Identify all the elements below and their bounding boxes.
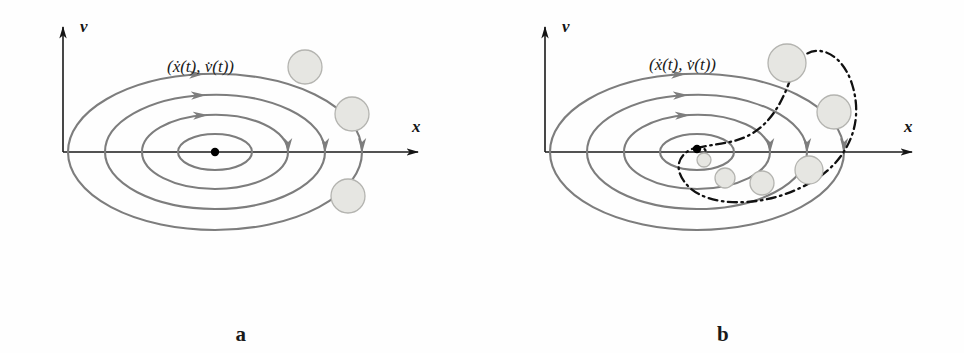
state-ball xyxy=(795,156,823,184)
state-ball xyxy=(331,179,365,213)
state-ball xyxy=(697,153,711,167)
x-axis-label-a: x xyxy=(411,117,421,136)
equilibrium-dot-a xyxy=(211,148,219,156)
state-ball xyxy=(750,171,774,195)
panel-a: v x xyxy=(0,0,482,353)
panel-caption-a: a xyxy=(0,322,482,347)
equilibrium-dot-b xyxy=(693,145,701,153)
state-vector-label-b: (ẋ(t), v̇(t)) xyxy=(649,55,716,74)
state-ball xyxy=(817,95,851,129)
panel-b: v x xyxy=(482,0,964,353)
state-vector-label-a: (ẋ(t), v̇(t)) xyxy=(167,57,234,76)
y-axis-label-b: v xyxy=(562,17,570,36)
axes-group-b: v x xyxy=(545,17,913,152)
x-axis-label-b: x xyxy=(903,117,913,136)
state-ball xyxy=(335,97,369,131)
phase-portrait-figure: v x xyxy=(0,0,964,353)
ball-group-b xyxy=(697,44,851,195)
panel-caption-b: b xyxy=(482,322,964,347)
y-axis-label-a: v xyxy=(80,17,88,36)
axes-group-a: v x xyxy=(63,17,421,152)
state-ball xyxy=(288,50,322,84)
state-ball xyxy=(715,168,735,188)
state-ball xyxy=(768,44,806,82)
